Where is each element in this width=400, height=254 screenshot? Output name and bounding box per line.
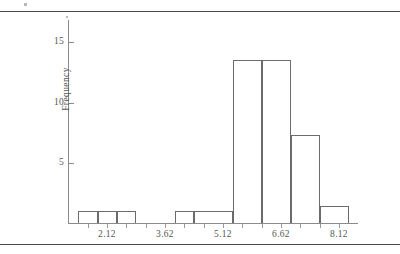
y-tick-label-15: 15 (34, 36, 64, 46)
x-tick-minor (320, 224, 321, 228)
histogram-figure: Frequency 15 10 5 2.12 3.62 5.12 6.62 8.… (0, 0, 400, 254)
histogram-bar (194, 211, 233, 223)
x-tick-5-12 (223, 224, 224, 228)
y-tick-label-10: 10 (34, 97, 64, 107)
x-tick-minor (262, 224, 263, 228)
histogram-bar (291, 135, 320, 223)
y-tick-10 (69, 103, 74, 104)
x-tick-minor (204, 224, 205, 228)
x-tick-6-62 (281, 224, 282, 228)
x-tick-minor (300, 224, 301, 228)
x-tick-3-62 (165, 224, 166, 228)
x-tick-minor (242, 224, 243, 228)
x-tick-label-8-12: 8.12 (319, 229, 359, 239)
histogram-bar (233, 60, 262, 223)
y-tick-5 (69, 163, 74, 164)
x-tick-2-12 (107, 224, 108, 228)
x-tick-minor (88, 224, 89, 228)
plot-area: Frequency 15 10 5 2.12 3.62 5.12 6.62 8.… (0, 0, 400, 254)
histogram-bar (78, 211, 98, 223)
histogram-bar (117, 211, 136, 223)
histogram-bar (98, 211, 117, 223)
x-axis-line (68, 223, 358, 224)
y-tick-15 (69, 42, 74, 43)
x-tick-label-3-62: 3.62 (145, 229, 185, 239)
x-tick-label-6-62: 6.62 (261, 229, 301, 239)
histogram-bar (175, 211, 194, 223)
y-axis-title: Frequency (61, 51, 71, 127)
x-tick-minor (184, 224, 185, 228)
x-tick-8-12 (339, 224, 340, 228)
histogram-bar (262, 60, 291, 223)
x-tick-label-2-12: 2.12 (87, 229, 127, 239)
histogram-bar (320, 206, 349, 223)
x-tick-minor (126, 224, 127, 228)
x-tick-minor (146, 224, 147, 228)
y-tick-label-5: 5 (34, 157, 64, 167)
x-tick-label-5-12: 5.12 (203, 229, 243, 239)
